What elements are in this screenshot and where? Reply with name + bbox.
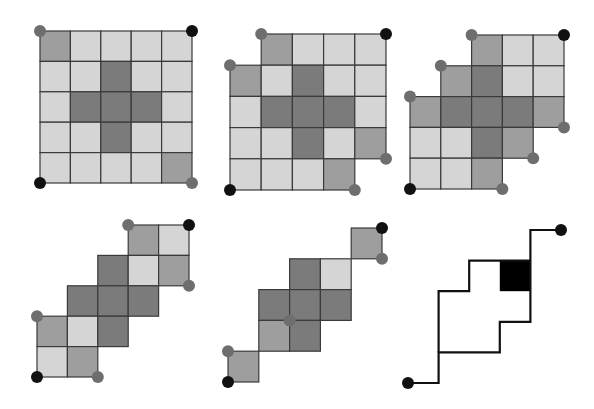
grid-cell-dark [101, 61, 131, 91]
grid-cell-mid [162, 153, 192, 183]
grid-cell-dark [67, 286, 97, 316]
grid-cell-light [441, 158, 472, 189]
grid-cell-mid [67, 347, 97, 377]
grid-cell-light [40, 122, 70, 152]
grid-cell-mid [40, 31, 70, 61]
grid-cell-mid [261, 34, 292, 65]
gray-dot-icon [435, 60, 447, 72]
gray-dot-icon [34, 25, 46, 37]
grid-cell-light [40, 153, 70, 183]
grid-cell-mid [472, 35, 503, 66]
grid-cell-mid [472, 158, 503, 189]
gray-dot-icon [404, 91, 416, 103]
grid-cell-mid [410, 97, 441, 128]
gray-dot-icon [496, 183, 508, 195]
grid-cell-dark [259, 290, 290, 321]
grid-cell-light [70, 153, 100, 183]
grid-cell-mid [159, 255, 189, 285]
grid-cell-light [261, 159, 292, 190]
grid-cell-dark [101, 92, 131, 122]
grid-cell-light [324, 65, 355, 96]
lattice-path-diagram [0, 0, 594, 409]
gray-dot-icon [222, 345, 234, 357]
grid-cell-dark [292, 65, 323, 96]
grid-cell-light [131, 61, 161, 91]
grid-cell-mid [324, 159, 355, 190]
black-dot-icon [34, 177, 46, 189]
grid-cell-light [101, 31, 131, 61]
grid-cell-dark [128, 286, 158, 316]
grid-cell-dark [261, 96, 292, 127]
grid-cell-light [320, 259, 351, 290]
grid-cell-dark [320, 290, 351, 321]
black-dot-icon [224, 184, 236, 196]
black-dot-icon [558, 29, 570, 41]
gray-dot-icon [186, 177, 198, 189]
gray-dot-icon [466, 29, 478, 41]
grid-cell-mid [355, 128, 386, 159]
gray-dot-icon [224, 59, 236, 71]
gray-dot-icon [284, 314, 296, 326]
black-dot-icon [402, 377, 414, 389]
grid-cell-light [162, 92, 192, 122]
grid-cell-light [261, 65, 292, 96]
grid-cell-mid [533, 97, 564, 128]
grid-cell-light [70, 61, 100, 91]
grid-cell-dark [290, 290, 321, 321]
grid-cell-dark [70, 92, 100, 122]
panel-3 [404, 29, 570, 195]
panel-4 [31, 219, 195, 383]
gray-dot-icon [255, 28, 267, 40]
gray-dot-icon [527, 152, 539, 164]
black-dot-icon [186, 25, 198, 37]
grid-cell-mid [351, 228, 382, 259]
black-dot-icon [183, 219, 195, 231]
grid-cell-light [162, 61, 192, 91]
grid-cell-dark [98, 255, 128, 285]
grid-cell-dark [441, 97, 472, 128]
grid-cell-light [128, 255, 158, 285]
gray-dot-icon [558, 121, 570, 133]
gray-dot-icon [92, 371, 104, 383]
black-dot-icon [31, 371, 43, 383]
grid-cell-light [533, 35, 564, 66]
grid-cell-dark [290, 320, 321, 351]
grid-cell-light [441, 127, 472, 158]
grid-cell-light [131, 153, 161, 183]
grid-cell-light [67, 316, 97, 346]
grid-cell-dark [292, 128, 323, 159]
grid-cell-light [292, 34, 323, 65]
grid-cell-mid [228, 351, 259, 382]
grid-cell-light [162, 122, 192, 152]
grid-cell-light [355, 34, 386, 65]
grid-cell-light [230, 96, 261, 127]
grid-cell-light [230, 159, 261, 190]
gray-dot-icon [380, 153, 392, 165]
black-dot-icon [555, 224, 567, 236]
grid-cell-light [324, 34, 355, 65]
panel-1 [34, 25, 198, 189]
black-dot-icon [376, 222, 388, 234]
grid-cell-dark [98, 316, 128, 346]
grid-cell-light [261, 128, 292, 159]
grid-cell-light [502, 66, 533, 97]
grid-cell-mid [37, 316, 67, 346]
grid-cell-dark [101, 122, 131, 152]
grid-cell-dark [472, 97, 503, 128]
gray-dot-icon [183, 280, 195, 292]
grid-cell-mid [441, 66, 472, 97]
grid-cell-light [101, 153, 131, 183]
grid-cell-light [292, 159, 323, 190]
grid-cell-light [70, 31, 100, 61]
grid-cell-dark [472, 127, 503, 158]
grid-cell-dark [324, 96, 355, 127]
black-dot-icon [222, 376, 234, 388]
filled-cell [500, 261, 531, 292]
grid-cell-dark [98, 286, 128, 316]
gray-dot-icon [376, 253, 388, 265]
gray-dot-icon [122, 219, 134, 231]
grid-cell-light [40, 92, 70, 122]
grid-cell-mid [128, 225, 158, 255]
grid-cell-light [502, 35, 533, 66]
grid-cell-light [355, 65, 386, 96]
